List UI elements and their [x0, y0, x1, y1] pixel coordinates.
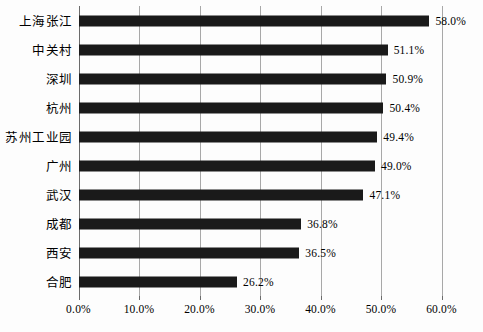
category-label: 广州 [46, 156, 73, 175]
axis-tick [139, 296, 140, 300]
bar-value-label: 36.8% [307, 218, 338, 230]
axis-tick-label: 60.0% [426, 303, 457, 315]
axis-tick-label: 0.0% [66, 303, 91, 315]
category-label: 西安 [46, 243, 73, 262]
category-axis-labels: 上海张江中关村深圳杭州苏州工业园广州武汉成都西安合肥 [0, 6, 73, 296]
plot-area: 58.0%51.1%50.9%50.4%49.4%49.0%47.1%36.8%… [79, 6, 442, 296]
bar [79, 276, 238, 287]
axis-tick [442, 296, 443, 300]
category-label: 武汉 [46, 185, 73, 204]
bar [79, 102, 384, 113]
bar-row: 26.2% [79, 267, 442, 296]
axis-tick [260, 296, 261, 300]
bar-row: 58.0% [79, 6, 442, 35]
bar [79, 218, 302, 229]
bar-row: 49.0% [79, 151, 442, 180]
category-label-row: 成都 [0, 209, 73, 238]
bar-value-label: 51.1% [394, 44, 425, 56]
category-label-row: 广州 [0, 151, 73, 180]
category-label-row: 上海张江 [0, 6, 73, 35]
category-label: 上海张江 [19, 11, 73, 30]
category-label: 合肥 [46, 272, 73, 291]
bar-row: 50.4% [79, 93, 442, 122]
bar-row: 49.4% [79, 122, 442, 151]
bar-value-label: 36.5% [305, 247, 336, 259]
bar-value-label: 49.4% [383, 131, 414, 143]
category-label: 深圳 [46, 69, 73, 88]
bar-value-label: 50.4% [389, 102, 420, 114]
category-label-row: 武汉 [0, 180, 73, 209]
category-label: 杭州 [46, 98, 73, 117]
bar [79, 247, 300, 258]
category-label-row: 中关村 [0, 35, 73, 64]
bar [79, 131, 378, 142]
category-label-row: 深圳 [0, 64, 73, 93]
bar [79, 160, 375, 171]
axis-tick [79, 296, 80, 300]
bar-chart: 上海张江中关村深圳杭州苏州工业园广州武汉成都西安合肥 58.0%51.1%50.… [0, 0, 483, 332]
category-label: 成都 [46, 214, 73, 233]
bar-value-label: 58.0% [435, 15, 466, 27]
value-axis-ticks [79, 296, 442, 301]
bar [79, 189, 364, 200]
bar [79, 15, 430, 26]
axis-tick-label: 10.0% [124, 303, 155, 315]
category-label-row: 西安 [0, 238, 73, 267]
bar-rows: 58.0%51.1%50.9%50.4%49.4%49.0%47.1%36.8%… [79, 6, 442, 296]
bar-value-label: 47.1% [369, 189, 400, 201]
bar-row: 50.9% [79, 64, 442, 93]
bar-value-label: 26.2% [243, 276, 274, 288]
bar [79, 44, 388, 55]
axis-tick [200, 296, 201, 300]
category-label: 苏州工业园 [5, 127, 73, 146]
bar-value-label: 50.9% [392, 73, 423, 85]
axis-tick [381, 296, 382, 300]
value-axis-labels: 0.0%10.0%20.0%30.0%40.0%50.0%60.0% [0, 303, 483, 325]
category-label: 中关村 [32, 40, 73, 59]
bar-row: 36.5% [79, 238, 442, 267]
axis-tick [321, 296, 322, 300]
bar-row: 47.1% [79, 180, 442, 209]
category-label-row: 苏州工业园 [0, 122, 73, 151]
category-label-row: 合肥 [0, 267, 73, 296]
bar-row: 51.1% [79, 35, 442, 64]
gridline-60.0 [442, 6, 443, 296]
bar-value-label: 49.0% [381, 160, 412, 172]
bar [79, 73, 387, 84]
axis-tick-label: 40.0% [305, 303, 336, 315]
axis-tick-label: 50.0% [366, 303, 397, 315]
category-label-row: 杭州 [0, 93, 73, 122]
axis-tick-label: 30.0% [245, 303, 276, 315]
bar-row: 36.8% [79, 209, 442, 238]
axis-tick-label: 20.0% [184, 303, 215, 315]
